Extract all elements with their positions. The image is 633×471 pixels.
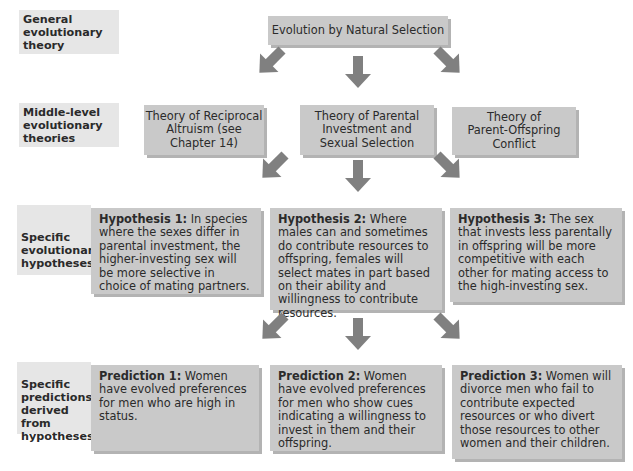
arrow-down-right-icon (428, 307, 469, 348)
arrow-down-left-icon (253, 146, 294, 187)
arrow-down-left-icon (253, 307, 294, 348)
arrow-down-left-icon (250, 41, 291, 82)
arrow-down-icon (345, 318, 371, 350)
arrow-down-right-icon (428, 41, 469, 82)
arrow-down-icon (345, 56, 371, 88)
flow-arrows (0, 0, 633, 471)
arrow-down-icon (345, 160, 371, 192)
arrow-down-right-icon (428, 146, 469, 187)
